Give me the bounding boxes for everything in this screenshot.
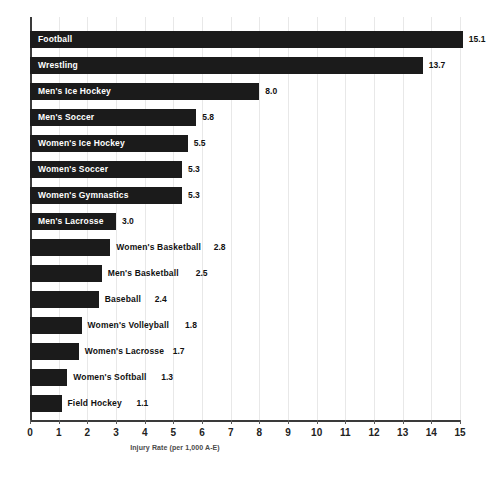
bar-category-label: Men's Soccer	[38, 109, 94, 126]
x-tick-mark-10	[317, 420, 318, 424]
bar-category-label: Women's Lacrosse	[85, 343, 164, 360]
x-tick-label-10: 10	[302, 427, 332, 438]
bar-row: Women's Lacrosse1.7	[30, 343, 460, 360]
bar-value-label: 2.5	[196, 265, 208, 282]
x-tick-mark-11	[345, 420, 346, 424]
x-tick-mark-0	[30, 420, 31, 424]
bar-category-label: Women's Softball	[73, 369, 146, 386]
x-tick-label-6: 6	[187, 427, 217, 438]
bar-value-label: 2.4	[155, 291, 167, 308]
bar-category-label: Women's Ice Hockey	[38, 135, 125, 152]
x-tick-mark-4	[145, 420, 146, 424]
bar	[30, 343, 79, 360]
bar	[30, 265, 102, 282]
x-axis-title: Injury Rate (per 1,000 A-E)	[110, 444, 240, 451]
x-tick-label-14: 14	[416, 427, 446, 438]
x-tick-mark-7	[231, 420, 232, 424]
x-tick-label-3: 3	[101, 427, 131, 438]
bar	[30, 57, 423, 74]
bar-category-label: Women's Volleyball	[88, 317, 169, 334]
x-tick-label-4: 4	[130, 427, 160, 438]
bar-category-label: Women's Gymnastics	[38, 187, 129, 204]
bar	[30, 239, 110, 256]
bar-row: Field Hockey1.1	[30, 395, 460, 412]
bar-row: Baseball2.4	[30, 291, 460, 308]
bar-category-label: Football	[38, 31, 72, 48]
bar-value-label: 15.1	[469, 31, 486, 48]
x-tick-label-13: 13	[388, 427, 418, 438]
bar-row: Women's Gymnastics5.3	[30, 187, 460, 204]
bar-value-label: 13.7	[429, 57, 446, 74]
x-tick-label-9: 9	[273, 427, 303, 438]
x-tick-label-1: 1	[44, 427, 74, 438]
x-tick-label-5: 5	[158, 427, 188, 438]
bar-row: Men's Ice Hockey8.0	[30, 83, 460, 100]
x-tick-label-12: 12	[359, 427, 389, 438]
injury-rate-bar-chart: Injury Rate (per 1,000 A-E) 012345678910…	[0, 0, 496, 481]
bar-row: Football15.1	[30, 31, 460, 48]
bar-value-label: 5.3	[188, 187, 200, 204]
bar	[30, 369, 67, 386]
x-tick-mark-2	[87, 420, 88, 424]
x-tick-mark-13	[403, 420, 404, 424]
x-tick-mark-9	[288, 420, 289, 424]
bar	[30, 291, 99, 308]
bar-value-label: 3.0	[122, 213, 134, 230]
bar-value-label: 1.3	[161, 369, 173, 386]
x-tick-mark-14	[431, 420, 432, 424]
x-tick-mark-8	[259, 420, 260, 424]
bar-row: Men's Soccer5.8	[30, 109, 460, 126]
x-tick-label-7: 7	[216, 427, 246, 438]
bar-row: Wrestling13.7	[30, 57, 460, 74]
x-tick-mark-6	[202, 420, 203, 424]
bar	[30, 31, 463, 48]
x-tick-label-15: 15	[445, 427, 475, 438]
x-tick-mark-12	[374, 420, 375, 424]
bar-row: Women's Ice Hockey5.5	[30, 135, 460, 152]
bar-value-label: 1.7	[173, 343, 185, 360]
bar-value-label: 1.1	[137, 395, 149, 412]
gridline-15	[460, 17, 461, 420]
bar-row: Women's Basketball2.8	[30, 239, 460, 256]
bar	[30, 317, 82, 334]
bar-category-label: Women's Basketball	[116, 239, 201, 256]
bar-row: Women's Softball1.3	[30, 369, 460, 386]
x-axis-line	[30, 420, 461, 422]
bar-value-label: 5.5	[194, 135, 206, 152]
bar-category-label: Wrestling	[38, 57, 78, 74]
bar-category-label: Men's Ice Hockey	[38, 83, 111, 100]
bar-value-label: 5.8	[202, 109, 214, 126]
bar-category-label: Women's Soccer	[38, 161, 108, 178]
bar-row: Women's Soccer5.3	[30, 161, 460, 178]
x-tick-mark-5	[173, 420, 174, 424]
bar-row: Men's Lacrosse3.0	[30, 213, 460, 230]
bar-row: Women's Volleyball1.8	[30, 317, 460, 334]
x-tick-mark-15	[460, 420, 461, 424]
bar-value-label: 1.8	[185, 317, 197, 334]
bar-value-label: 8.0	[265, 83, 277, 100]
x-tick-label-8: 8	[244, 427, 274, 438]
bar-value-label: 5.3	[188, 161, 200, 178]
bar-category-label: Men's Basketball	[108, 265, 179, 282]
bar-value-label: 2.8	[214, 239, 226, 256]
bar-category-label: Field Hockey	[68, 395, 122, 412]
bar-category-label: Baseball	[105, 291, 141, 308]
x-tick-mark-3	[116, 420, 117, 424]
x-tick-label-11: 11	[330, 427, 360, 438]
x-tick-label-2: 2	[72, 427, 102, 438]
x-tick-mark-1	[59, 420, 60, 424]
bar-row: Men's Basketball2.5	[30, 265, 460, 282]
bar-category-label: Men's Lacrosse	[38, 213, 104, 230]
bar	[30, 395, 62, 412]
x-tick-label-0: 0	[15, 427, 45, 438]
